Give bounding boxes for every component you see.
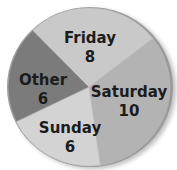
pie-chart: Friday 8 Saturday 10 Sunday 6 Other 6 <box>0 0 177 170</box>
other-label: Other <box>19 71 68 89</box>
saturday-label: Saturday <box>91 83 168 101</box>
other-value: 6 <box>38 90 48 108</box>
sunday-label: Sunday <box>39 119 102 137</box>
saturday-value: 10 <box>119 102 140 120</box>
friday-label: Friday <box>64 29 116 47</box>
sunday-value: 6 <box>65 138 75 156</box>
friday-value: 8 <box>85 48 95 66</box>
